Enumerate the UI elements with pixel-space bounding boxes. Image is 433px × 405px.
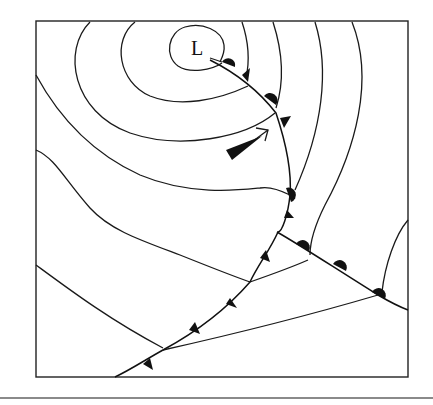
- isobar-warm-sector-1: [250, 260, 308, 282]
- low-pressure-label: L: [191, 37, 203, 59]
- cold-front: [115, 60, 290, 377]
- isobar-warm-sector-2: [163, 295, 378, 350]
- map-frame: [36, 21, 408, 377]
- airflow-wedge-icon: [226, 136, 262, 160]
- isobar-right-1: [295, 22, 322, 190]
- isobar-6: [36, 150, 250, 282]
- isobar-right-2: [310, 22, 362, 255]
- isobar-5: [36, 75, 290, 195]
- isobar-7: [36, 265, 163, 348]
- weather-map: L: [0, 0, 433, 405]
- isobar-right-3: [382, 220, 408, 292]
- bottom-rule: [0, 397, 433, 399]
- isobar-3-right: [242, 22, 248, 78]
